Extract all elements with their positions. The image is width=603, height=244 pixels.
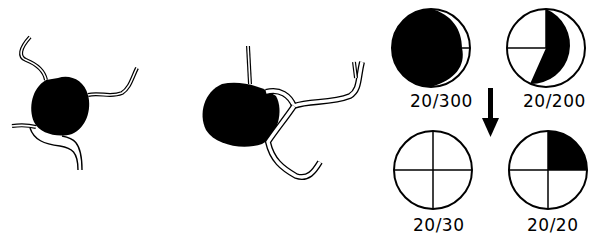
lesion-left [12, 37, 137, 170]
acuity-chart-20-20 [509, 131, 587, 209]
acuity-label-20-30: 20/30 [413, 215, 465, 235]
diagram-canvas [0, 0, 603, 244]
acuity-label-20-300: 20/300 [410, 91, 473, 111]
down-arrow-icon [482, 88, 499, 137]
acuity-chart-20-300 [392, 9, 470, 87]
acuity-chart-20-200 [507, 9, 585, 87]
acuity-label-20-20: 20/20 [527, 215, 579, 235]
acuity-chart-20-30 [394, 131, 472, 209]
acuity-label-20-200: 20/200 [523, 91, 586, 111]
lesion-middle [203, 46, 362, 177]
